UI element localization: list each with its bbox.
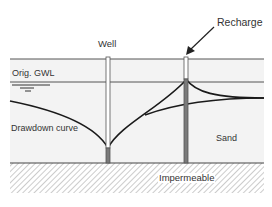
recharge-arrow-icon bbox=[186, 27, 214, 55]
impermeable-label: Impermeable bbox=[158, 173, 215, 183]
recharge-well-screen bbox=[184, 79, 188, 163]
sand-label: Sand bbox=[216, 134, 237, 143]
recharge-well bbox=[184, 57, 188, 163]
groundwater-diagram bbox=[0, 0, 272, 207]
drawdown-curve-label: Drawdown curve bbox=[11, 124, 78, 133]
well-screen bbox=[106, 148, 110, 163]
recharge-label: Recharge bbox=[217, 17, 263, 28]
pumping-well bbox=[106, 57, 110, 163]
orig-gwl-label: Orig. GWL bbox=[12, 69, 55, 78]
well-label: Well bbox=[98, 39, 116, 49]
impermeable-layer bbox=[10, 163, 264, 193]
